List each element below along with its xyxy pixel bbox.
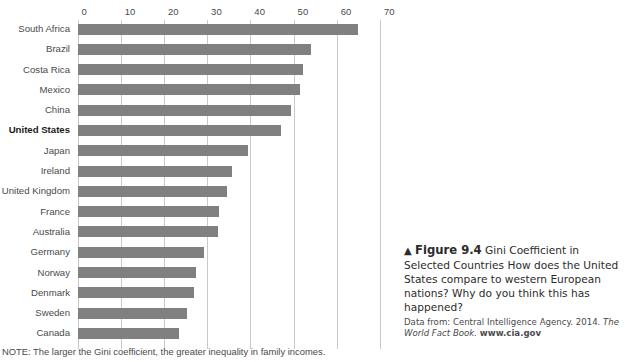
bar-south-africa <box>78 24 359 35</box>
bar-row: South Africa <box>0 20 400 40</box>
category-label-sweden: Sweden <box>0 307 70 318</box>
category-label-china: China <box>0 104 70 115</box>
bar-row: Brazil <box>0 40 400 60</box>
source-prefix: Data from: Central Intelligence Agency. … <box>404 317 600 327</box>
figure-caption-text: ▲ Figure 9.4 Gini Coefficient in Selecte… <box>404 243 626 314</box>
category-label-canada: Canada <box>0 327 70 338</box>
bar-united-states <box>78 125 281 136</box>
bar-row: Canada <box>0 324 400 344</box>
category-label-denmark: Denmark <box>0 287 70 298</box>
caption-figure-number: Figure 9.4 <box>415 243 482 257</box>
bar-denmark <box>78 287 195 298</box>
x-tick-label-0: 0 <box>82 6 87 17</box>
bar-costa-rica <box>78 64 304 75</box>
bar-row: Germany <box>0 243 400 263</box>
bar-row: Mexico <box>0 81 400 101</box>
bar-rows: South AfricaBrazilCosta RicaMexicoChinaU… <box>0 20 400 345</box>
category-label-south-africa: South Africa <box>0 23 70 34</box>
bar-united-kingdom <box>78 186 227 197</box>
bar-sweden <box>78 308 187 319</box>
caption-triangle-icon: ▲ <box>404 245 412 256</box>
bar-row: Norway <box>0 264 400 284</box>
bar-row: Sweden <box>0 304 400 324</box>
bar-row: United Kingdom <box>0 182 400 202</box>
bar-row: Costa Rica <box>0 61 400 81</box>
bar-brazil <box>78 44 311 55</box>
figure-source-line: Data from: Central Intelligence Agency. … <box>404 317 626 339</box>
bar-australia <box>78 226 218 237</box>
bar-row: Denmark <box>0 284 400 304</box>
bar-row: China <box>0 101 400 121</box>
source-url-link[interactable]: www.cia.gov <box>480 328 541 338</box>
bar-germany <box>78 247 205 258</box>
bar-mexico <box>78 84 300 95</box>
category-label-australia: Australia <box>0 226 70 237</box>
chart-note: NOTE: The larger the Gini coefficient, t… <box>2 346 325 357</box>
x-tick-label-10: 10 <box>125 6 136 17</box>
figure-caption-block: ▲ Figure 9.4 Gini Coefficient in Selecte… <box>404 243 626 339</box>
category-label-japan: Japan <box>0 145 70 156</box>
x-tick-label-70: 70 <box>384 6 395 17</box>
bar-ireland <box>78 166 232 177</box>
category-label-costa-rica: Costa Rica <box>0 64 70 75</box>
bar-row: Ireland <box>0 162 400 182</box>
chart-plot-area: 010203040506070 South AfricaBrazilCosta … <box>0 0 400 345</box>
x-tick-label-30: 30 <box>211 6 222 17</box>
category-label-france: France <box>0 206 70 217</box>
x-tick-label-60: 60 <box>341 6 352 17</box>
bar-japan <box>78 145 248 156</box>
x-tick-label-40: 40 <box>254 6 265 17</box>
category-label-ireland: Ireland <box>0 165 70 176</box>
bar-row: France <box>0 203 400 223</box>
x-tick-label-20: 20 <box>168 6 179 17</box>
x-tick-label-50: 50 <box>298 6 309 17</box>
category-label-germany: Germany <box>0 246 70 257</box>
category-label-united-states: United States <box>0 124 70 135</box>
bar-canada <box>78 328 180 339</box>
figure-gini-coefficient: 010203040506070 South AfricaBrazilCosta … <box>0 0 628 362</box>
bar-row: Australia <box>0 223 400 243</box>
category-label-mexico: Mexico <box>0 84 70 95</box>
bar-row: Japan <box>0 142 400 162</box>
bar-france <box>78 206 220 217</box>
bar-row: United States <box>0 121 400 141</box>
bar-norway <box>78 267 197 278</box>
bar-china <box>78 105 291 116</box>
category-label-norway: Norway <box>0 267 70 278</box>
category-label-united-kingdom: United Kingdom <box>0 185 70 196</box>
category-label-brazil: Brazil <box>0 43 70 54</box>
